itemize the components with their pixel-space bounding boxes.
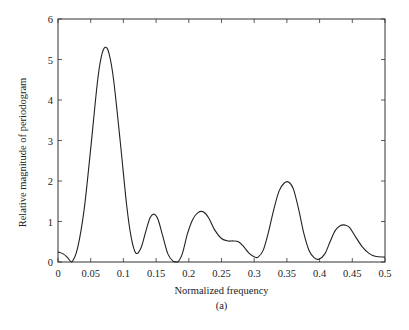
plot-frame <box>58 19 385 262</box>
figure-caption: (a) <box>216 300 228 312</box>
y-tick-label: 5 <box>48 55 53 66</box>
y-axis-label: Relative magnitude of periodogram <box>17 78 28 228</box>
x-axis-label: Normalized frequency <box>174 285 269 296</box>
y-tick-label: 1 <box>48 217 53 228</box>
y-tick-label: 2 <box>48 176 53 187</box>
y-tick-label: 4 <box>48 95 54 106</box>
x-tick-label: 0.2 <box>182 268 195 279</box>
x-tick-label: 0.1 <box>117 268 130 279</box>
y-tick-label: 3 <box>48 136 53 147</box>
y-tick-label: 6 <box>48 14 53 25</box>
x-tick-label: 0.25 <box>212 268 230 279</box>
y-axis-ticks: 0123456 <box>48 14 385 268</box>
x-tick-label: 0.35 <box>278 268 296 279</box>
x-tick-label: 0 <box>55 268 60 279</box>
x-tick-label: 0.15 <box>147 268 165 279</box>
periodogram-chart: 00.050.10.150.20.250.30.350.40.450.5 012… <box>0 0 409 330</box>
x-tick-label: 0.5 <box>378 268 391 279</box>
y-tick-label: 0 <box>48 257 53 268</box>
x-tick-label: 0.3 <box>248 268 261 279</box>
x-tick-label: 0.05 <box>82 268 100 279</box>
periodogram-line <box>58 47 385 262</box>
x-tick-label: 0.45 <box>343 268 361 279</box>
x-tick-label: 0.4 <box>313 268 327 279</box>
